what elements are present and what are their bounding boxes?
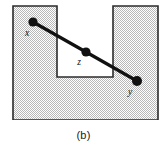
point-y — [132, 76, 142, 86]
point-label-z: z — [76, 57, 81, 67]
geometry-diagram: x z y — [0, 0, 167, 120]
point-label-x: x — [24, 28, 30, 38]
figure-caption: (b) — [0, 128, 167, 142]
point-z — [81, 47, 90, 56]
point-label-y: y — [127, 87, 133, 97]
figure-container: x z y (b) — [0, 0, 167, 148]
point-x — [28, 17, 37, 26]
